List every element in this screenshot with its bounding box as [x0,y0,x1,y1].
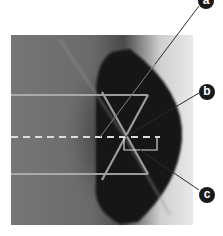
diagram-canvas [0,0,223,236]
label-b-badge: b [199,84,215,100]
refraction-diagram: a b c [0,0,223,236]
label-c-badge: c [199,187,215,203]
